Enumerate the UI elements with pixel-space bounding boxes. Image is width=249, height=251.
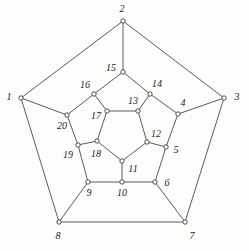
vertex-label-4: 4 [181,98,186,108]
graph-vertex-3[interactable] [222,96,226,100]
graph-vertex-18[interactable] [95,139,99,143]
vertex-label-2: 2 [120,4,125,14]
graph-edge [78,145,88,182]
graph-vertex-13[interactable] [136,109,140,113]
graph-vertex-14[interactable] [148,92,152,96]
vertex-label-9: 9 [87,188,92,198]
graph-edge [67,94,94,115]
graph-edge [123,21,224,98]
graph-vertex-2[interactable] [121,19,125,23]
graph-vertex-7[interactable] [183,220,187,224]
vertex-label-6: 6 [165,178,170,188]
graph-vertex-17[interactable] [105,109,109,113]
vertex-label-17: 17 [91,111,101,121]
graph-edge [21,98,59,222]
graph-edge [150,94,178,114]
graph-edge [78,141,97,145]
graph-vertex-6[interactable] [153,180,157,184]
graph-vertex-11[interactable] [120,159,124,163]
graph-vertex-8[interactable] [57,220,61,224]
graph-edge [94,94,107,111]
graph-vertex-5[interactable] [164,145,168,149]
graph-edge [185,98,224,222]
graph-edge [59,182,88,222]
graph-edge [21,21,123,98]
vertex-label-12: 12 [151,129,161,139]
vertex-label-3: 3 [235,92,240,102]
graph-vertex-10[interactable] [120,180,124,184]
vertex-label-5: 5 [174,145,179,155]
graph-vertex-1[interactable] [19,96,23,100]
graph-edge [94,72,123,94]
graph-vertex-4[interactable] [176,112,180,116]
graph-edge [138,94,150,111]
graph-vertex-12[interactable] [145,140,149,144]
vertex-label-13: 13 [128,96,138,106]
vertex-label-7: 7 [190,231,195,241]
graph-edge [147,142,166,147]
vertex-label-19: 19 [63,150,73,160]
vertex-label-18: 18 [91,149,101,159]
vertex-label-14: 14 [152,79,162,89]
graph-edge [138,111,147,142]
graph-edge [67,115,78,145]
vertex-label-11: 11 [128,164,137,174]
graph-vertex-15[interactable] [121,70,125,74]
graph-figure: 1234567891011121314151617181920 [0,0,249,251]
graph-vertex-20[interactable] [65,113,69,117]
graph-edge [21,98,67,115]
graph-vertex-19[interactable] [76,143,80,147]
graph-edge [166,114,178,147]
graph-edge [155,182,185,222]
vertex-label-20: 20 [57,121,67,131]
vertex-label-10: 10 [117,188,127,198]
vertex-label-8: 8 [56,231,61,241]
graph-edge [122,142,147,161]
vertex-label-1: 1 [7,92,12,102]
graph-edge [123,72,150,94]
vertex-label-16: 16 [80,80,90,90]
graph-vertex-9[interactable] [86,180,90,184]
graph-vertex-16[interactable] [92,92,96,96]
graph-canvas [0,0,249,251]
vertex-label-15: 15 [106,63,116,73]
